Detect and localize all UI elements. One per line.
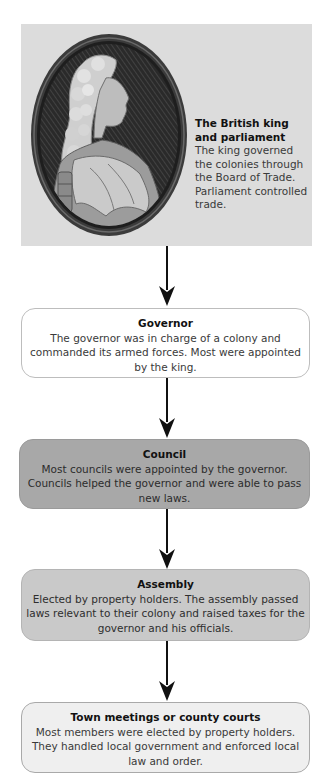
- town-meetings-title: Town meetings or county courts: [22, 710, 309, 725]
- town-meetings-description: Most members were elected by property ho…: [22, 725, 309, 769]
- governor-description: The governor was in charge of a colony a…: [22, 331, 309, 375]
- assembly-title: Assembly: [22, 577, 309, 592]
- assembly-box: Assembly Elected by property holders. Th…: [21, 569, 310, 641]
- british-king-title: The British king and parliament: [195, 117, 313, 144]
- council-box: Council Most councils were appointed by …: [19, 439, 310, 509]
- governor-title: Governor: [22, 316, 309, 331]
- council-title: Council: [20, 447, 309, 462]
- town-meetings-box: Town meetings or county courts Most memb…: [21, 702, 310, 773]
- down-arrow-icon: [159, 378, 175, 438]
- governor-box: Governor The governor was in charge of a…: [21, 308, 310, 378]
- king-portrait-image: [30, 34, 188, 237]
- british-king-description: The British king and parliament The king…: [195, 117, 313, 212]
- council-description: Most councils were appointed by the gove…: [20, 462, 309, 506]
- down-arrow-icon: [159, 509, 175, 569]
- title-line-1: The British king: [195, 117, 289, 129]
- assembly-description: Elected by property holders. The assembl…: [22, 592, 309, 636]
- british-king-panel: The British king and parliament The king…: [21, 24, 312, 246]
- down-arrow-icon: [159, 246, 175, 306]
- down-arrow-icon: [159, 641, 175, 701]
- title-line-2: and parliament: [195, 131, 285, 143]
- british-king-body: The king governed the colonies through t…: [195, 144, 313, 212]
